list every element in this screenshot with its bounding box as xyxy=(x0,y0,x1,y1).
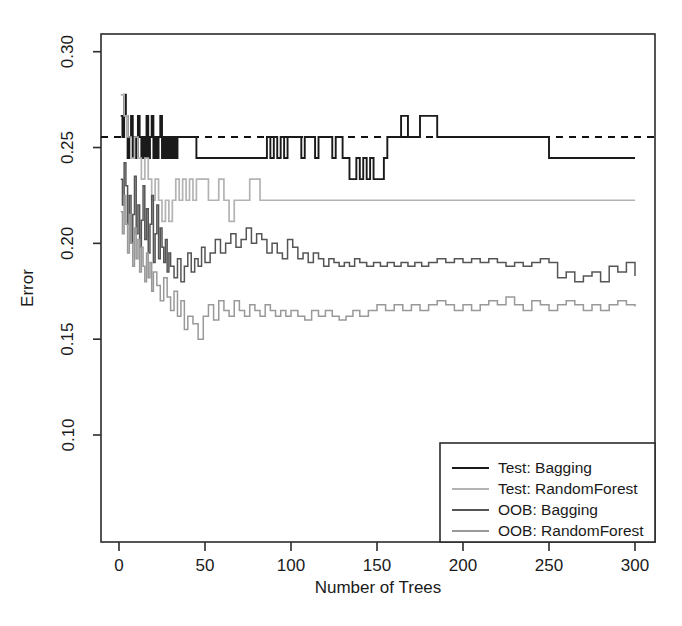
x-tick-label: 150 xyxy=(363,556,391,575)
x-axis-title: Number of Trees xyxy=(315,578,442,597)
legend-label-2: OOB: Bagging xyxy=(498,501,598,518)
x-tick-label: 300 xyxy=(621,556,649,575)
chart-legend: Test: BaggingTest: RandomForestOOB: Bagg… xyxy=(440,443,655,542)
legend-label-1: Test: RandomForest xyxy=(498,480,638,497)
error-vs-number-of-trees-chart: 0.100.150.200.250.30 050100150200250300 … xyxy=(0,0,682,626)
y-tick-label: 0.25 xyxy=(59,131,78,164)
y-axis-title: Error xyxy=(18,269,37,307)
x-tick-label: 250 xyxy=(535,556,563,575)
y-tick-label: 0.30 xyxy=(59,35,78,68)
x-tick-label: 0 xyxy=(114,556,123,575)
y-tick-label: 0.15 xyxy=(59,323,78,356)
legend-label-0: Test: Bagging xyxy=(498,459,592,476)
y-tick-label: 0.10 xyxy=(59,418,78,451)
x-tick-label: 50 xyxy=(196,556,215,575)
legend-label-3: OOB: RandomForest xyxy=(498,522,644,539)
x-tick-label: 100 xyxy=(277,556,305,575)
y-tick-label: 0.20 xyxy=(59,227,78,260)
x-tick-label: 200 xyxy=(449,556,477,575)
chart-figure: 0.100.150.200.250.30 050100150200250300 … xyxy=(0,0,682,626)
